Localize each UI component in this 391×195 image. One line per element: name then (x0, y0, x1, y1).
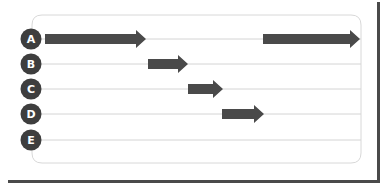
marker-label: B (27, 58, 35, 71)
arrow-row-c (188, 80, 223, 98)
arrow-row-a (45, 30, 146, 48)
arrow-row-a (263, 30, 360, 48)
row-marker-b: B (21, 54, 42, 75)
row-markers: ABCDE (21, 29, 42, 151)
marker-label: D (26, 108, 35, 121)
row-marker-c: C (21, 79, 42, 100)
arrow-row-b (148, 55, 188, 73)
arrow-row-d (222, 105, 264, 123)
timeline-diagram: ABCDE (0, 0, 391, 195)
task-arrows (45, 30, 360, 123)
marker-label: E (27, 134, 35, 147)
row-marker-a: A (21, 29, 42, 50)
marker-label: C (27, 83, 35, 96)
marker-label: A (27, 33, 36, 46)
row-marker-d: D (21, 104, 42, 125)
row-marker-e: E (21, 130, 42, 151)
